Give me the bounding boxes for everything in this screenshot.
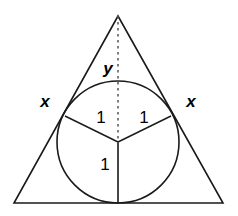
label-x-right: x	[186, 93, 195, 110]
label-y: y	[103, 60, 112, 77]
radius-to-left-tangent-point	[65, 116, 118, 142]
label-one-right: 1	[139, 109, 148, 126]
geometry-diagram	[0, 0, 238, 216]
label-x-left: x	[40, 93, 49, 110]
geometry-figure: y x x 1 1 1	[0, 0, 238, 216]
label-one-left: 1	[96, 109, 105, 126]
label-one-bottom: 1	[100, 156, 109, 173]
